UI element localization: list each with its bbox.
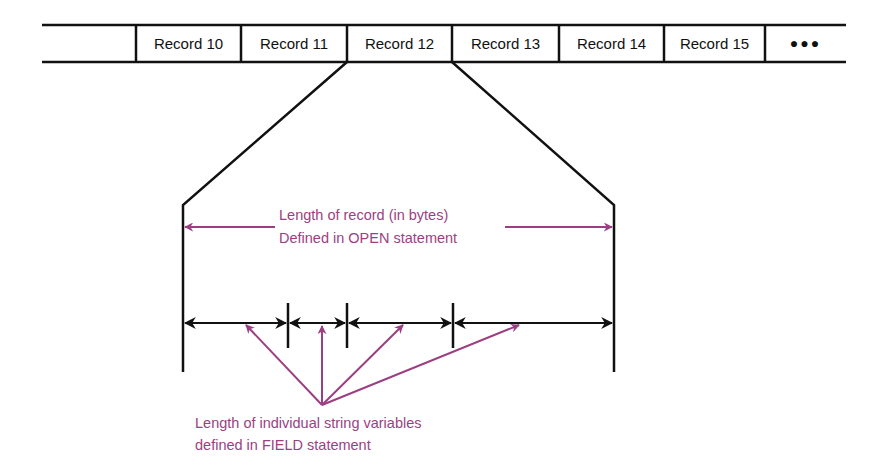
field-length-label-line2: defined in FIELD statement	[195, 435, 371, 455]
record-cell-15: Record 15	[664, 25, 765, 62]
record-length-label-line1: Length of record (in bytes)	[279, 205, 448, 225]
record-cell-11: Record 11	[241, 25, 347, 62]
record-length-label-line2: Defined in OPEN statement	[279, 228, 457, 248]
field-boundary-ticks	[288, 303, 453, 348]
record-cell-10: Record 10	[136, 25, 241, 62]
field-length-label-line1: Length of individual string variables	[195, 413, 422, 433]
ellipsis-icon: ●●●	[765, 25, 846, 62]
record-cell-13: Record 13	[452, 25, 559, 62]
record-cell-14: Record 14	[559, 25, 664, 62]
record-cell-12: Record 12	[347, 25, 452, 62]
